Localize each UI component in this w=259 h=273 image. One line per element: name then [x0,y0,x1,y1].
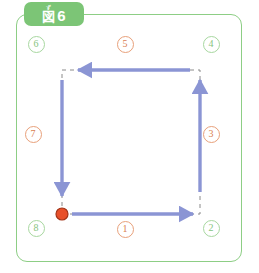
step-number-6: 6 [28,36,45,53]
step-number-7: 7 [25,126,42,143]
step-number-3: 3 [203,126,220,143]
figure-tab-inner: ず 図 6 [42,5,65,23]
figure-tab-kanji-wrap: ず 図 [42,5,55,23]
step-number-4: 4 [203,36,220,53]
figure-tab: ず 図 6 [24,2,84,26]
figure-tab-number: 6 [57,9,65,23]
step-number-1: 1 [117,221,134,238]
step-number-8: 8 [28,220,45,237]
step-number-2: 2 [203,220,220,237]
figure-root: ず 図 6 12345678 [0,0,259,273]
step-number-5: 5 [117,36,134,53]
figure-tab-kanji: 図 [42,10,55,23]
